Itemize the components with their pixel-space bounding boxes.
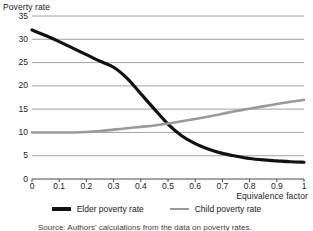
x-tick-label: 0.9 — [266, 182, 288, 191]
y-tick-label: 35 — [6, 12, 28, 21]
x-tick-label: 0.3 — [103, 182, 125, 191]
x-tick-label: 0.6 — [184, 182, 206, 191]
x-axis-title: Equivalence factor — [236, 191, 308, 201]
y-tick-label: 15 — [6, 105, 28, 114]
legend-swatch-icon — [170, 208, 189, 211]
legend-item-child-poverty-rate[interactable]: Child poverty rate — [170, 204, 262, 214]
x-tick-label: 0.2 — [75, 182, 97, 191]
y-tick-label: 10 — [6, 128, 28, 137]
x-tick-label: 1 — [293, 182, 313, 191]
gridlines — [32, 16, 304, 156]
chart-legend: Elder poverty rateChild poverty rate — [0, 204, 313, 214]
x-tick-label: 0.4 — [130, 182, 152, 191]
y-tick-label: 20 — [6, 81, 28, 90]
x-tick-label: 0.7 — [211, 182, 233, 191]
legend-label: Elder poverty rate — [77, 204, 144, 214]
series-line-2 — [32, 100, 304, 133]
y-tick-label: 30 — [6, 35, 28, 44]
y-tick-label: 5 — [6, 151, 28, 160]
legend-label: Child poverty rate — [195, 204, 262, 214]
x-tick-label: 0.8 — [239, 182, 261, 191]
plot-area — [32, 16, 304, 179]
x-tick-label: 0.1 — [48, 182, 70, 191]
series-line-1 — [32, 30, 304, 162]
legend-swatch-icon — [52, 207, 71, 210]
x-tick-label: 0 — [21, 182, 43, 191]
x-tick-label: 0.5 — [157, 182, 179, 191]
legend-item-elder-poverty-rate[interactable]: Elder poverty rate — [52, 204, 144, 214]
series-layer — [32, 30, 304, 162]
y-tick-label: 25 — [6, 58, 28, 67]
plot-svg — [32, 16, 304, 179]
source-note: Source: Authors' calculations from the d… — [38, 223, 313, 231]
poverty-rate-line-chart: Poverty rate 05101520253035 00.10.20.30.… — [0, 0, 313, 231]
